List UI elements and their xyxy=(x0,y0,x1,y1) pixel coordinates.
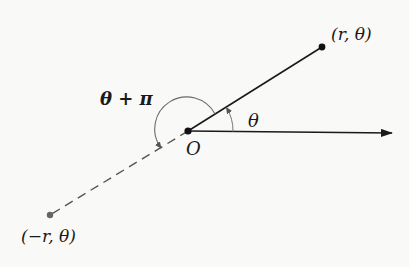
origin-point xyxy=(184,127,191,134)
label-point-r-theta: (r, θ) xyxy=(331,24,372,44)
point-neg-r-theta xyxy=(47,212,53,218)
theta-plus-pi-arc xyxy=(155,97,215,148)
polar-diagram: (r, θ) O θ θ + π (−r, θ) xyxy=(0,0,409,267)
polar-axis xyxy=(188,131,392,133)
label-theta: θ xyxy=(248,110,259,131)
theta-angle-arc xyxy=(227,108,234,132)
label-point-neg-r-theta: (−r, θ) xyxy=(21,226,76,246)
dashed-ray-to-negative-point xyxy=(50,131,188,215)
label-origin: O xyxy=(186,138,201,159)
point-r-theta xyxy=(319,44,326,51)
label-theta-plus-pi: θ + π xyxy=(100,88,153,109)
